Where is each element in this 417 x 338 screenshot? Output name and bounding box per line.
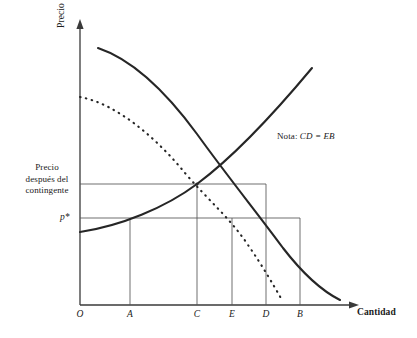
x-axis-label: Cantidad [357,307,396,319]
y-axis-label: Precio [56,3,68,28]
note-annotation: Nota: CD = EB [277,131,335,142]
residual-demand-curve [80,97,282,300]
x-tick-label-A: A [123,309,137,319]
price-after-quota-line-2: después del [26,174,69,184]
equilibrium-point-C [195,182,198,185]
note-prefix: Nota: [277,131,298,141]
total-demand-curve [98,48,340,300]
supply-curve [80,68,312,232]
x-tick-label-C: C [190,309,204,319]
price-after-quota-line-3: contingente [25,185,68,195]
x-tick-label-O: O [73,309,87,319]
x-tick-label-D: D [259,309,273,319]
price-after-quota-line-1: Precio [35,162,59,172]
y-axis-arrow-icon [76,19,83,29]
axes-group [76,19,359,309]
note-expression: CD = EB [300,131,335,141]
supply-demand-figure: Precio Cantidad Nota: CD = EB Precio des… [0,0,417,338]
x-tick-label-B: B [293,309,307,319]
x-tick-label-E: E [225,309,239,319]
price-after-quota-label: Precio después del contingente [18,162,76,197]
equilibrium-price-label: p* [60,212,70,224]
